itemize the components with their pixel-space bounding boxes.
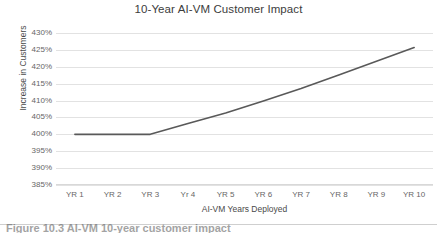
y-axis-tick-label: 415%: [4, 79, 52, 88]
y-axis-tick-label: 405%: [4, 112, 52, 121]
x-axis-tick-label: YR 10: [391, 190, 437, 199]
y-axis-tick-label: 425%: [4, 45, 52, 54]
y-axis-tick-labels: 430%425%420%415%410%405%400%395%390%385%: [0, 33, 52, 185]
y-axis-tick-label: 385%: [4, 180, 52, 189]
figure-caption: Figure 10.3 AI-VM 10-year customer impac…: [6, 224, 231, 233]
gridline: [56, 185, 433, 186]
chart-figure: 10-Year AI-VM Customer Impact Increase i…: [0, 0, 437, 233]
chart-title: 10-Year AI-VM Customer Impact: [0, 3, 437, 15]
plot-area: [56, 33, 433, 185]
y-axis-tick-label: 395%: [4, 146, 52, 155]
x-axis-title: AI-VM Years Deployed: [56, 204, 433, 214]
x-axis-tick-labels: YR 1YR 2YR 3Yr 4YR 5YR 6YR 7YR 8YR 9YR 1…: [56, 190, 433, 203]
y-axis-tick-label: 390%: [4, 163, 52, 172]
y-axis-tick-label: 400%: [4, 129, 52, 138]
y-axis-tick-label: 430%: [4, 28, 52, 37]
series-line-chart: [56, 33, 433, 185]
y-axis-tick-label: 420%: [4, 62, 52, 71]
y-axis-tick-label: 410%: [4, 96, 52, 105]
figure-caption-strip: Figure 10.3 AI-VM 10-year customer impac…: [0, 224, 437, 233]
series-line: [75, 48, 414, 135]
